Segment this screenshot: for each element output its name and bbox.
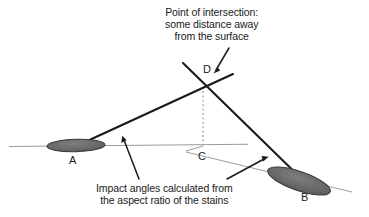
leader-arrow-top [214, 48, 230, 74]
caption-bottom-line-2: the aspect ratio of the stains [96, 194, 233, 206]
leader-arrow-left [121, 136, 139, 179]
surface-line [9, 144, 248, 146]
bloodstain-a [47, 139, 105, 153]
point-of-intersection-caption: Point of intersection: some distance awa… [165, 6, 258, 43]
point-label-c: C [198, 150, 206, 162]
diagram-canvas: Point of intersection: some distance awa… [0, 0, 369, 217]
point-label-a: A [69, 154, 76, 166]
caption-top-line-3: from the surface [165, 30, 258, 42]
impact-angles-caption: Impact angles calculated from the aspect… [96, 182, 233, 206]
caption-top-line-2: some distance away [165, 18, 258, 30]
caption-top-line-1: Point of intersection: [165, 6, 258, 18]
bloodstain-b [265, 161, 334, 200]
caption-bottom-line-1: Impact angles calculated from [96, 182, 233, 194]
point-label-d: D [203, 63, 211, 75]
trajectory-line-a [72, 74, 233, 148]
point-label-b: B [301, 191, 308, 203]
leader-arrow-right [227, 156, 269, 179]
